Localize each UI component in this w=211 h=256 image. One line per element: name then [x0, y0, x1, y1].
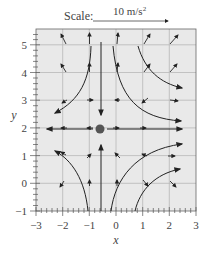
y-axis-label: y — [10, 108, 17, 122]
equilibrium-point — [96, 125, 105, 134]
vector-field-figure: Scale: 10 m/s2 — [0, 0, 211, 256]
scale-label: Scale: — [64, 9, 93, 23]
svg-text:3: 3 — [193, 219, 199, 231]
svg-text:3: 3 — [22, 94, 28, 106]
svg-text:−3: −3 — [30, 219, 42, 231]
svg-text:1: 1 — [22, 150, 28, 162]
scale-value: 10 m/s2 — [113, 5, 147, 17]
svg-text:0: 0 — [22, 177, 28, 189]
svg-text:−1: −1 — [83, 219, 95, 231]
svg-text:2: 2 — [167, 219, 173, 231]
svg-text:0: 0 — [113, 219, 119, 231]
scale-annotation: Scale: 10 m/s2 — [64, 5, 168, 23]
svg-text:5: 5 — [22, 39, 28, 51]
y-tick-labels: −1 0 1 2 3 4 5 — [15, 39, 27, 217]
x-tick-labels: −3 −2 −1 0 1 2 3 — [30, 219, 199, 231]
svg-text:1: 1 — [140, 219, 146, 231]
svg-text:2: 2 — [22, 122, 28, 134]
svg-text:−1: −1 — [15, 205, 27, 217]
svg-text:−2: −2 — [57, 219, 69, 231]
x-axis-label: x — [112, 233, 119, 247]
svg-text:4: 4 — [22, 67, 28, 79]
